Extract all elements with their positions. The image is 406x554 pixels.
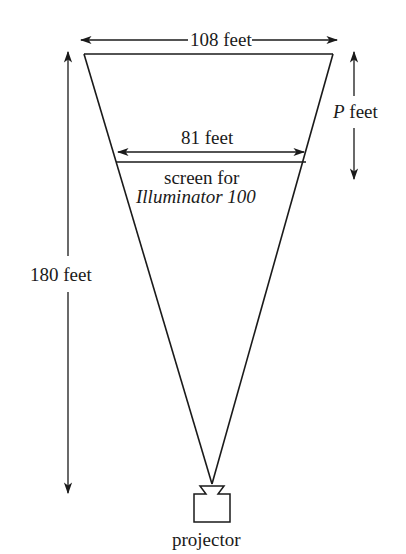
projector-icon <box>194 486 230 522</box>
p-distance-label: P feet <box>333 102 378 121</box>
screen-caption-line2: Illuminator 100 <box>136 187 256 206</box>
height-label: 180 feet <box>30 265 92 284</box>
left-side <box>84 54 212 484</box>
p-variable: P <box>333 101 345 122</box>
light-cone <box>84 54 333 484</box>
projector-label: projector <box>172 530 241 549</box>
screen-caption-line1: screen for <box>164 168 239 187</box>
top-width-label: 108 feet <box>190 30 252 49</box>
screen-width-label: 81 feet <box>181 128 233 147</box>
p-unit: feet <box>349 101 377 122</box>
right-side <box>212 54 333 484</box>
